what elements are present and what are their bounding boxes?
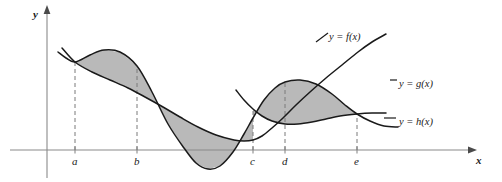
figure-canvas: abcdey = f(x)y = g(x)y = h(x)yx xyxy=(0,0,502,182)
tick-label-d: d xyxy=(282,155,288,167)
tick-label-b: b xyxy=(134,155,140,167)
y-axis-label: y xyxy=(33,8,38,20)
curve-label-g: y = g(x) xyxy=(399,78,433,89)
curve-label-f: y = f(x) xyxy=(329,31,361,42)
y-axis-arrowhead xyxy=(44,5,51,14)
tick-label-a: a xyxy=(72,155,78,167)
x-axis-label: x xyxy=(476,154,482,166)
shaded-regions xyxy=(75,50,357,169)
tick-label-c: c xyxy=(250,155,255,167)
shaded-region-b-c xyxy=(137,66,253,169)
x-axis-arrowhead xyxy=(468,147,477,154)
axes xyxy=(10,5,477,178)
curve-label-h: y = h(x) xyxy=(399,116,433,127)
tick-label-e: e xyxy=(354,155,359,167)
leader-line-f xyxy=(316,33,328,42)
